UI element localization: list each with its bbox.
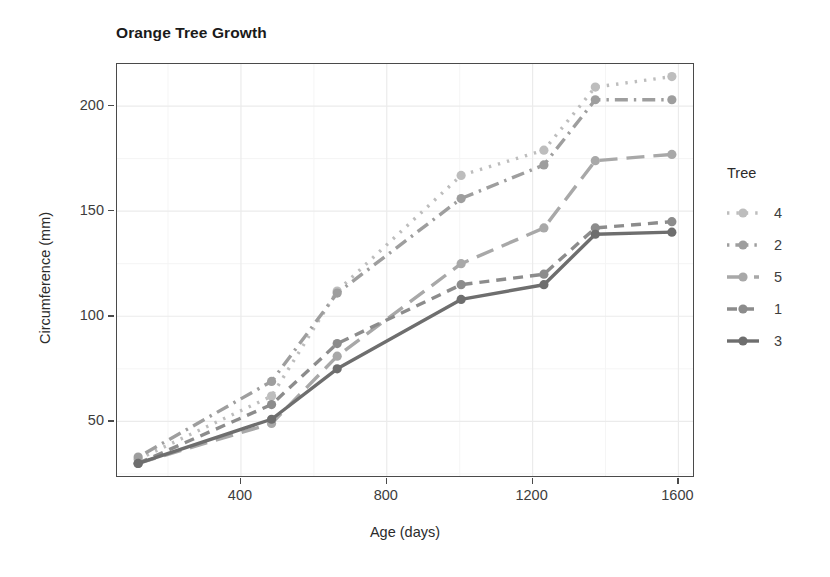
legend-label: 5 (774, 269, 782, 285)
y-tick-mark (108, 420, 114, 421)
data-point (539, 146, 548, 155)
data-point (539, 223, 548, 232)
data-point (591, 95, 600, 104)
data-point (457, 171, 466, 180)
series-line-4 (138, 77, 672, 460)
series-line-2 (138, 100, 672, 457)
data-point (267, 400, 276, 409)
data-point (267, 377, 276, 386)
data-point (333, 339, 342, 348)
legend-label: 1 (774, 301, 782, 317)
data-point (457, 295, 466, 304)
legend-item-3[interactable]: 3 (726, 325, 826, 357)
y-tick-mark (108, 315, 114, 316)
y-tick-mark (108, 210, 114, 211)
series-1 (134, 217, 677, 468)
x-tick-label: 400 (228, 487, 252, 503)
data-point (591, 156, 600, 165)
legend-item-2[interactable]: 2 (726, 229, 826, 261)
data-point (539, 160, 548, 169)
x-tick-label: 1200 (515, 487, 547, 503)
chart-title: Orange Tree Growth (116, 24, 267, 42)
data-point (333, 352, 342, 361)
plot-area (117, 64, 693, 476)
x-tick-mark (677, 478, 678, 484)
data-point (539, 280, 548, 289)
data-point (457, 280, 466, 289)
x-tick-mark (532, 478, 533, 484)
legend-key-icon (726, 297, 760, 321)
x-tick-label: 800 (374, 487, 398, 503)
data-point (267, 392, 276, 401)
y-tick-mark (108, 105, 114, 106)
legend-key-icon (726, 233, 760, 257)
data-point (591, 83, 600, 92)
data-point (457, 259, 466, 268)
data-point (539, 270, 548, 279)
series-4 (134, 72, 677, 464)
chart-root: Orange Tree Growth Circumference (mm) 50… (0, 0, 830, 577)
legend-key-icon (726, 329, 760, 353)
y-tick-label: 50 (88, 412, 104, 428)
legend-key-icon (726, 265, 760, 289)
legend-key-icon (726, 201, 760, 225)
legend-item-4[interactable]: 4 (726, 197, 826, 229)
series-5 (134, 150, 677, 468)
y-tick-label: 100 (80, 307, 104, 323)
legend-label: 3 (774, 333, 782, 349)
data-point (333, 289, 342, 298)
plot-panel (116, 63, 694, 477)
data-point (667, 150, 676, 159)
data-point (267, 415, 276, 424)
data-point (333, 364, 342, 373)
series-line-5 (138, 154, 672, 463)
legend-item-1[interactable]: 1 (726, 293, 826, 325)
series-2 (134, 95, 677, 462)
series-line-1 (138, 222, 672, 464)
x-axis-title: Age (days) (116, 524, 694, 540)
legend-item-5[interactable]: 5 (726, 261, 826, 293)
legend-title: Tree (726, 165, 826, 181)
x-tick-mark (386, 478, 387, 484)
data-point (667, 95, 676, 104)
data-point (667, 217, 676, 226)
y-tick-label: 200 (80, 97, 104, 113)
legend-label: 4 (774, 205, 782, 221)
data-point (667, 72, 676, 81)
x-tick-mark (240, 478, 241, 484)
legend-items: 42513 (726, 197, 826, 357)
data-point (457, 194, 466, 203)
data-point (667, 228, 676, 237)
y-axis-tick-labels: 50100150200 (0, 0, 104, 577)
legend: Tree 42513 (726, 165, 826, 357)
data-point (134, 459, 143, 468)
legend-label: 2 (774, 237, 782, 253)
x-tick-label: 1600 (661, 487, 693, 503)
data-point (591, 230, 600, 239)
grid-lines (117, 64, 693, 476)
y-tick-label: 150 (80, 202, 104, 218)
